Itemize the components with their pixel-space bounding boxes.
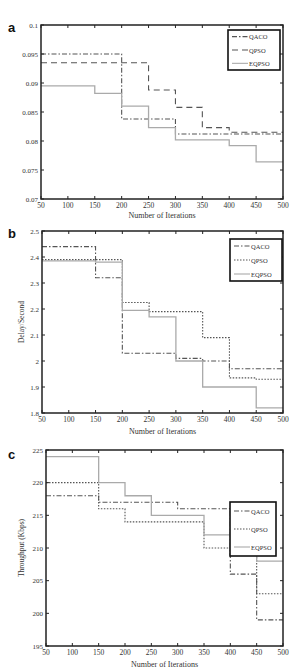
legend-entry-qaco: QACO: [249, 33, 268, 40]
y-tick-label: 220: [33, 479, 44, 487]
x-tick-label: 450: [251, 648, 263, 657]
x-tick-label: 400: [224, 201, 236, 210]
legend-entry-qaco: QACO: [251, 243, 270, 250]
series-line-eqpso: [42, 261, 283, 408]
x-tick-label: 50: [38, 415, 46, 424]
panel-letter-a: a: [8, 20, 15, 35]
y-tick-label: 0.07: [26, 196, 39, 204]
legend-entry-eqpso: EQPSO: [249, 60, 270, 67]
x-axis-label: Number of Iterations: [131, 660, 198, 669]
x-tick-label: 450: [251, 415, 263, 424]
y-tick-label: 1.8: [30, 410, 39, 418]
y-tick-label: 195: [33, 643, 44, 651]
x-tick-label: 350: [198, 648, 210, 657]
x-tick-label: 150: [93, 648, 105, 657]
x-tick-label: 150: [89, 201, 101, 210]
legend-entry-qpso: QPSO: [249, 47, 266, 54]
chart-panel-c: c 50100150200250300350400450500195200205…: [0, 442, 300, 672]
x-tick-label: 200: [116, 201, 128, 210]
y-tick-label: 0.095: [22, 51, 38, 59]
y-tick-label: 1.9: [30, 384, 39, 392]
y-tick-label: 2: [36, 358, 40, 366]
y-tick-label: 2.5: [30, 228, 39, 236]
y-tick-label: 210: [33, 545, 44, 553]
y-tick-label: 215: [33, 512, 44, 520]
legend-entry-qaco: QACO: [251, 508, 270, 515]
y-tick-label: 200: [33, 610, 44, 618]
chart-legend: QACOQPSOEQPSO: [230, 239, 282, 281]
y-tick-label: 2.4: [30, 254, 39, 262]
x-axis-label: Number of Iterations: [129, 427, 196, 436]
y-tick-label: 0.09: [26, 80, 39, 88]
x-tick-label: 500: [277, 415, 289, 424]
x-tick-label: 450: [250, 201, 262, 210]
y-tick-label: 2.3: [30, 280, 39, 288]
x-tick-label: 100: [62, 201, 74, 210]
y-axis-label: Throughput (Kbps): [17, 518, 26, 577]
x-tick-label: 50: [42, 648, 50, 657]
panel-letter-b: b: [8, 226, 16, 241]
x-tick-label: 200: [117, 415, 129, 424]
x-axis-label: Number of Iterations: [128, 211, 195, 220]
x-tick-label: 300: [172, 648, 184, 657]
x-tick-label: 500: [277, 201, 289, 210]
chart-b-svg: 501001502002503003504004505001.81.922.12…: [0, 222, 300, 442]
x-tick-label: 350: [197, 415, 209, 424]
x-tick-label: 250: [146, 648, 158, 657]
x-tick-label: 500: [277, 648, 289, 657]
x-tick-label: 100: [67, 648, 79, 657]
x-tick-label: 400: [224, 415, 236, 424]
y-tick-label: 0.08: [26, 138, 39, 146]
chart-panel-b: b 501001502002503003504004505001.81.922.…: [0, 222, 300, 442]
chart-panel-a: a 501001502002503003504004505000.070.075…: [0, 0, 300, 222]
x-tick-label: 100: [63, 415, 75, 424]
y-tick-label: 2.2: [30, 306, 39, 314]
chart-c-svg: 5010015020025030035040045050019520020521…: [0, 442, 300, 672]
x-tick-label: 200: [119, 648, 131, 657]
y-tick-label: 225: [33, 447, 44, 455]
legend-entry-qpso: QPSO: [251, 526, 268, 533]
x-tick-label: 400: [225, 648, 237, 657]
y-tick-label: 0.085: [22, 109, 38, 117]
chart-legend: QACOQPSOEQPSO: [228, 30, 280, 70]
x-tick-label: 50: [37, 201, 45, 210]
y-tick-label: 2.1: [30, 332, 39, 340]
legend-entry-qpso: QPSO: [251, 257, 268, 264]
x-tick-label: 300: [170, 201, 182, 210]
x-tick-label: 250: [143, 201, 155, 210]
panel-letter-c: c: [8, 447, 15, 462]
chart-legend: QACOQPSOEQPSO: [230, 502, 276, 556]
y-tick-label: 0.075: [22, 167, 38, 175]
legend-entry-eqpso: EQPSO: [251, 544, 272, 551]
x-tick-label: 150: [90, 415, 102, 424]
series-line-qpso: [41, 63, 283, 133]
y-tick-label: 205: [33, 577, 44, 585]
chart-a-svg: 501001502002503003504004505000.070.0750.…: [0, 0, 300, 222]
series-line-eqpso: [41, 86, 283, 162]
y-tick-label: 0.1: [29, 22, 38, 30]
x-tick-label: 300: [170, 415, 182, 424]
y-axis-label: Delay/Second: [17, 301, 26, 343]
legend-entry-eqpso: EQPSO: [251, 271, 272, 278]
x-tick-label: 250: [143, 415, 155, 424]
x-tick-label: 350: [197, 201, 209, 210]
